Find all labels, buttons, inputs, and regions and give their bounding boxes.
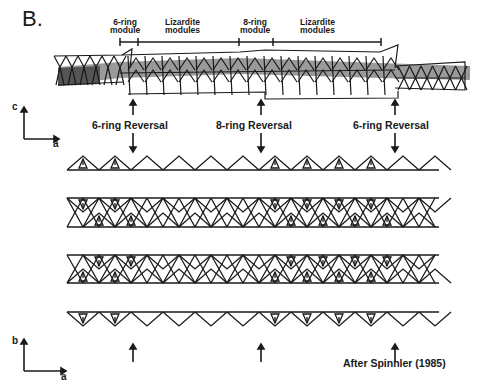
- label-6ring-module: 6-ring module: [110, 18, 140, 34]
- label-lizardite-modules-2: Lizardite modules: [300, 18, 335, 34]
- polyhedral-strip-cross-section: [54, 45, 470, 99]
- axis-label-a-top: a: [53, 138, 59, 149]
- reversal-arrows: [130, 100, 398, 362]
- axis-label-a-bottom: a: [61, 371, 67, 382]
- panel-label: B.: [22, 6, 43, 32]
- label-8ring-reversal: 8-ring Reversal: [216, 119, 292, 131]
- label-6ring-reversal-left: 6-ring Reversal: [92, 119, 168, 131]
- label-6ring-reversal-right: 6-ring Reversal: [353, 119, 429, 131]
- axis-label-c: c: [12, 101, 18, 112]
- diagram-canvas: [0, 0, 482, 386]
- tetrahedral-sheet-plan-view: [67, 156, 451, 326]
- module-scale-bar: [120, 38, 381, 46]
- axis-indicators: [21, 107, 66, 374]
- label-lizardite-modules-1: Lizardite modules: [165, 18, 200, 34]
- label-8ring-module: 8-ring module: [240, 18, 270, 34]
- axis-label-b: b: [12, 335, 18, 346]
- source-credit: After Spinnler (1985): [343, 357, 446, 369]
